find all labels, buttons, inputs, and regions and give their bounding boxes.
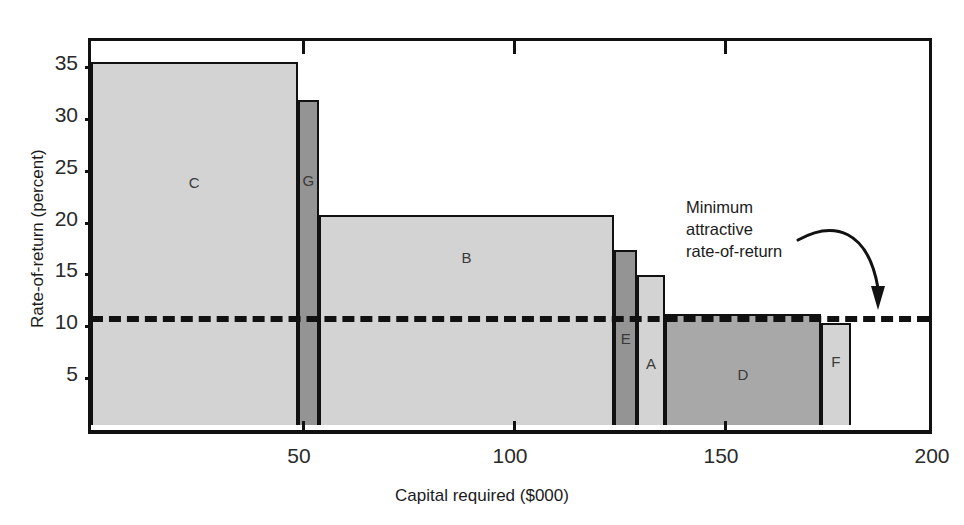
y-tick-label-35: 35 [32, 51, 78, 75]
bar-label-g: G [300, 172, 317, 189]
bar-c: C [91, 62, 298, 425]
bar-f: F [821, 323, 851, 425]
y-tick-label-10: 10 [32, 310, 78, 334]
x-tick-label-100: 100 [475, 444, 545, 468]
x-tick-label-200: 200 [897, 444, 964, 468]
rate-of-return-chart: Rate-of-return (percent) 5101520253035 C… [0, 0, 964, 525]
bar-e: E [614, 250, 637, 425]
bar-label-f: F [823, 353, 849, 370]
x-tick-top-50 [302, 41, 305, 54]
x-tick-label-150: 150 [686, 444, 756, 468]
minimum-attractive-rate-of-return-line [91, 316, 929, 322]
bar-a: A [637, 275, 664, 425]
x-tick-50 [302, 421, 305, 430]
bar-g: G [298, 100, 319, 424]
bar-label-e: E [616, 330, 635, 347]
y-tick-label-20: 20 [32, 207, 78, 231]
x-tick-top-100 [513, 41, 516, 54]
y-tick-label-15: 15 [32, 258, 78, 282]
x-tick-150 [724, 421, 727, 430]
bar-label-d: D [667, 366, 819, 383]
bar-label-c: C [93, 174, 296, 191]
y-tick-label-5: 5 [32, 362, 78, 386]
minimum-attractive-rate-of-return-annotation: Minimum attractive rate-of-return [686, 196, 782, 262]
y-tick-label-30: 30 [32, 103, 78, 127]
bar-label-a: A [639, 355, 662, 372]
plot-area: CGBEADF [88, 38, 932, 434]
x-tick-100 [513, 421, 516, 430]
x-axis-title: Capital required ($000) [0, 486, 964, 506]
x-tick-top-150 [724, 41, 727, 54]
bar-label-b: B [321, 249, 612, 266]
y-tick-label-25: 25 [32, 155, 78, 179]
bar-d: D [665, 314, 821, 425]
x-tick-label-50: 50 [264, 444, 334, 468]
